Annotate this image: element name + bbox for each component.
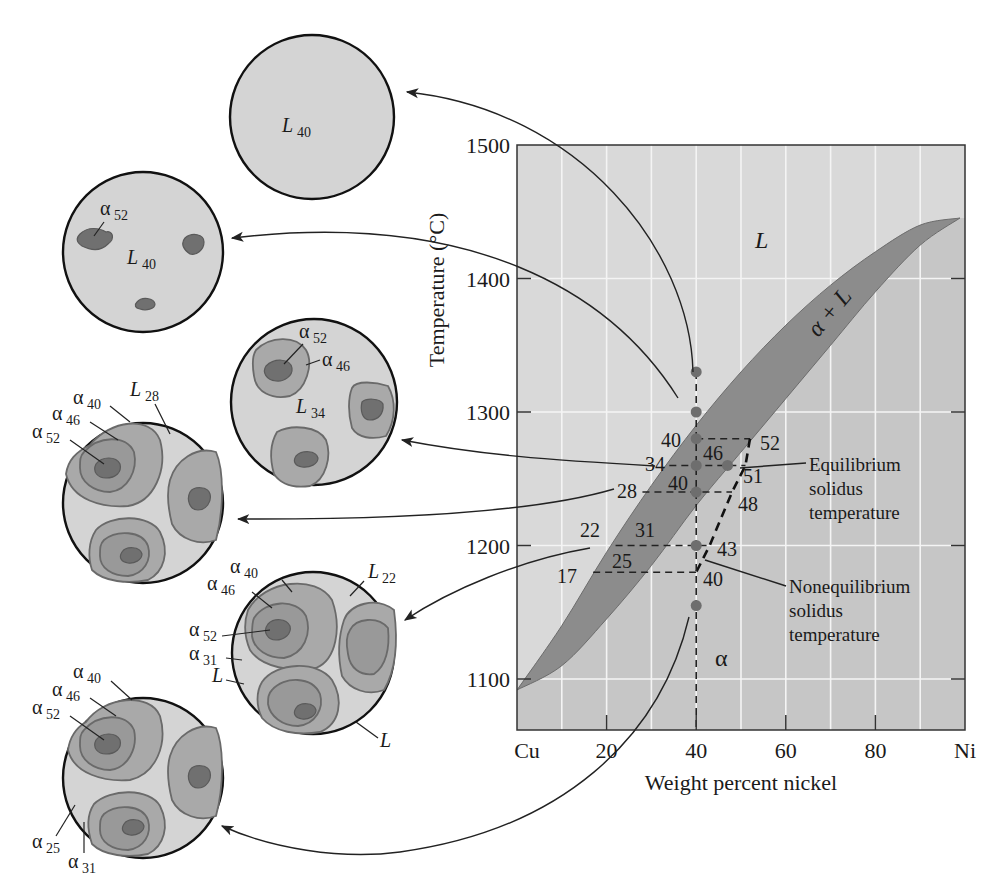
svg-text:L: L — [126, 246, 138, 268]
y-axis-tick-labels: 15001400130012001100 — [466, 133, 510, 692]
svg-text:L: L — [281, 114, 293, 136]
phase-diagram-figure: Cu20406080Ni 15001400130012001100 Weight… — [0, 0, 1001, 893]
svg-text:31: 31 — [82, 861, 96, 876]
svg-text:46: 46 — [66, 413, 80, 428]
label-solid-1240: 40 — [668, 472, 688, 494]
plot-area — [517, 145, 965, 730]
microstructure-fully-cored-solid: α 40 α 46 α 52 α 25 α 31 — [32, 660, 223, 876]
y-tick-1100: 1100 — [467, 667, 510, 692]
label-avg-1260: 51 — [743, 465, 763, 487]
svg-text:46: 46 — [221, 583, 235, 598]
microstructure-alpha52-in-L40: α 52 L 40 — [63, 172, 223, 332]
svg-text:46: 46 — [66, 689, 80, 704]
svg-text:52: 52 — [46, 707, 60, 722]
label-liquid-1180: 17 — [557, 565, 577, 587]
cooling-point — [691, 460, 702, 471]
x-tick-80: 80 — [864, 738, 886, 763]
svg-text:40: 40 — [142, 257, 156, 272]
svg-text:40: 40 — [244, 566, 258, 581]
svg-text:22: 22 — [382, 571, 396, 586]
svg-text:temperature: temperature — [809, 502, 900, 523]
y-tick-1200: 1200 — [466, 534, 510, 559]
svg-text:α: α — [230, 555, 241, 577]
label-solid-1260: 46 — [703, 442, 723, 464]
label-liquid-1260: 34 — [645, 453, 665, 475]
y-axis-title: Temperature (°C) — [424, 213, 449, 367]
svg-text:40: 40 — [87, 671, 101, 686]
microstructure-cored-L28: α 40 α 46 α 52 L 28 — [32, 378, 223, 583]
svg-text:L: L — [129, 378, 141, 400]
svg-text:α: α — [299, 320, 310, 342]
svg-text:52: 52 — [313, 331, 327, 346]
x-tick-Cu: Cu — [514, 738, 540, 763]
cooling-point — [691, 433, 702, 444]
svg-text:25: 25 — [46, 841, 60, 856]
svg-text:α: α — [32, 830, 43, 852]
cooling-point — [691, 487, 702, 498]
svg-text:L: L — [211, 664, 223, 686]
svg-text:α: α — [73, 386, 84, 408]
svg-text:34: 34 — [311, 406, 325, 421]
svg-text:52: 52 — [46, 431, 60, 446]
label-liquid-1240: 28 — [617, 480, 637, 502]
svg-text:40: 40 — [87, 397, 101, 412]
y-tick-1500: 1500 — [466, 133, 510, 158]
cooling-point — [691, 600, 702, 611]
label-solid-1180: 25 — [612, 550, 632, 572]
region-label-liquid: L — [754, 227, 768, 253]
svg-text:α: α — [73, 660, 84, 682]
equilibrium-solid-point — [722, 460, 733, 471]
microstructure-cored-L34: α 52 α 46 L 34 — [231, 319, 397, 487]
svg-text:52: 52 — [203, 629, 217, 644]
label-solid-1200: 31 — [635, 519, 655, 541]
svg-text:α: α — [32, 420, 43, 442]
svg-text:α: α — [32, 696, 43, 718]
svg-text:α: α — [52, 402, 63, 424]
svg-text:α: α — [100, 197, 111, 219]
svg-text:α: α — [52, 678, 63, 700]
x-axis-title: Weight percent nickel — [645, 770, 837, 795]
cooling-point — [691, 540, 702, 551]
svg-text:L: L — [295, 395, 307, 417]
svg-text:α: α — [189, 618, 200, 640]
svg-text:α: α — [207, 572, 218, 594]
svg-text:α: α — [189, 642, 200, 664]
label-avg-1200: 43 — [717, 538, 737, 560]
x-tick-40: 40 — [685, 738, 707, 763]
region-label-solid: α — [715, 645, 728, 671]
svg-text:α: α — [322, 348, 333, 370]
svg-text:46: 46 — [336, 359, 350, 374]
y-tick-1400: 1400 — [466, 267, 510, 292]
label-avg-1180: 40 — [703, 568, 723, 590]
svg-text:L: L — [379, 729, 391, 751]
label-liquid-1280: 40 — [661, 429, 681, 451]
svg-text:52: 52 — [114, 208, 128, 223]
svg-text:40: 40 — [297, 125, 311, 140]
svg-text:solidus: solidus — [809, 478, 863, 499]
microstructure-liquid-L40: L 40 — [230, 35, 394, 199]
cooling-point — [691, 407, 702, 418]
svg-text:α: α — [68, 850, 79, 872]
x-axis-tick-labels: Cu20406080Ni — [514, 738, 976, 763]
svg-text:solidus: solidus — [789, 600, 843, 621]
svg-text:Equilibrium: Equilibrium — [809, 454, 901, 475]
x-tick-20: 20 — [596, 738, 618, 763]
x-tick-Ni: Ni — [954, 738, 976, 763]
label-avg-1240: 48 — [738, 493, 758, 515]
label-solid-1280: 52 — [760, 432, 780, 454]
y-tick-1300: 1300 — [466, 400, 510, 425]
svg-text:Nonequilibrium: Nonequilibrium — [789, 576, 911, 597]
x-tick-60: 60 — [775, 738, 797, 763]
microstructures: L 40 α 52 L 40 α 52 α 46 — [32, 35, 397, 876]
microstructure-cored-L22: α 40 α 46 α 52 α 31 L L L 22 — [189, 555, 396, 751]
svg-text:28: 28 — [145, 389, 159, 404]
svg-text:L: L — [367, 560, 379, 582]
label-liquid-1200: 22 — [580, 519, 600, 541]
svg-text:temperature: temperature — [789, 624, 880, 645]
